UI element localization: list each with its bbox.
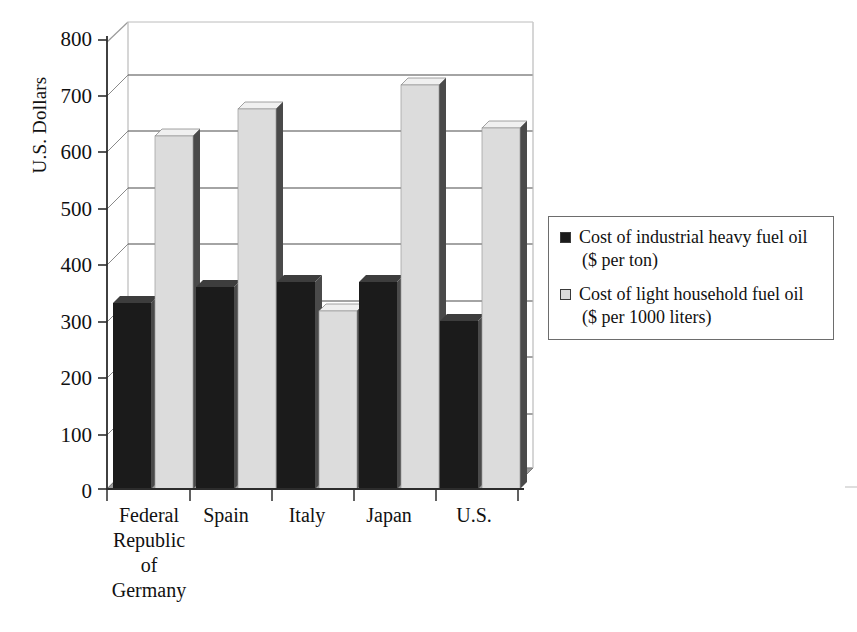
legend-label-industrial: Cost of industrial heavy fuel oil ($ per… [579,226,825,272]
legend-label-industrial-line1: Cost of industrial heavy fuel oil [579,227,807,247]
bar-us-industrial-heavy-fuel-oil [440,321,478,489]
x-axis-ticks [107,489,518,501]
bar-top-spain-dark [196,280,241,287]
x-tick-label-spain: Spain [183,503,269,528]
bar-top-us-light [482,121,527,128]
bar-italy-light-household-fuel-oil [319,311,357,489]
bar-side-us-light [520,121,527,489]
bar-top-italy-light [319,304,364,311]
bar-group-italy [277,275,364,489]
depth-edge-top-left [107,22,128,42]
x-tick-label-japan: Japan [348,503,430,528]
bar-top-japan-light [401,78,446,85]
bar-japan-industrial-heavy-fuel-oil [359,282,397,489]
bar-group-germany [113,129,200,489]
bar-italy-industrial-heavy-fuel-oil [277,282,315,489]
bar-germany-industrial-heavy-fuel-oil [113,303,151,489]
bar-top-italy-dark [277,275,322,282]
bar-top-germany-light [155,129,200,136]
bar-top-japan-dark [359,275,404,282]
x-tick-label-italy: Italy [268,503,346,528]
bar-spain-industrial-heavy-fuel-oil [196,287,234,489]
dark-square-swatch-icon [560,232,571,243]
bar-top-us-dark [440,314,485,321]
bar-germany-light-household-fuel-oil [155,136,193,489]
legend-item-industrial-heavy-fuel-oil: Cost of industrial heavy fuel oil ($ per… [558,226,825,272]
legend-label-household-line1: Cost of light household fuel oil [579,284,804,304]
light-square-swatch-icon [560,289,571,300]
bar-top-spain-light [238,102,283,109]
legend-label-industrial-line2: ($ per ton) [579,249,825,272]
legend-label-household-line2: ($ per 1000 liters) [579,306,825,329]
legend-item-light-household-fuel-oil: Cost of light household fuel oil ($ per … [558,283,825,329]
bar-spain-light-household-fuel-oil [238,109,276,489]
x-tick-label-us: U.S. [434,503,514,528]
bar-japan-light-household-fuel-oil [401,85,439,489]
bar-top-germany-dark [113,296,158,303]
fuel-oil-cost-bar-chart: U.S. Dollars 800 700 600 500 400 300 200… [0,0,857,632]
legend-label-household: Cost of light household fuel oil ($ per … [579,283,825,329]
chart-legend: Cost of industrial heavy fuel oil ($ per… [548,216,834,340]
bar-us-light-household-fuel-oil [482,128,520,489]
y-axis-ticks [98,40,107,489]
